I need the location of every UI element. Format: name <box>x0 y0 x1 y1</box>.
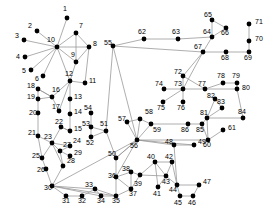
graph-node[interactable] <box>41 74 46 79</box>
graph-node-label: 43 <box>162 178 170 185</box>
graph-node[interactable] <box>35 29 40 34</box>
graph-node-label: 9 <box>71 51 75 58</box>
graph-node[interactable] <box>50 141 55 146</box>
graph-node-label: 48 <box>165 138 173 145</box>
graph-node[interactable] <box>241 116 246 121</box>
graph-node-label: 46 <box>188 199 196 206</box>
graph-node[interactable] <box>221 81 226 86</box>
graph-edge <box>43 47 57 76</box>
graph-node[interactable] <box>210 18 215 23</box>
graph-node[interactable] <box>176 37 181 42</box>
graph-node[interactable] <box>36 97 41 102</box>
graph-node[interactable] <box>87 45 92 50</box>
graph-node-label: 69 <box>244 54 252 61</box>
graph-node-label: 26 <box>37 166 45 173</box>
graph-node[interactable] <box>93 187 98 192</box>
graph-node[interactable] <box>40 156 45 161</box>
graph-node-label: 51 <box>100 120 108 127</box>
graph-node[interactable] <box>36 87 41 92</box>
graph-node[interactable] <box>36 134 41 139</box>
graph-node[interactable] <box>178 194 183 199</box>
graph-node[interactable] <box>23 55 28 60</box>
graph-node[interactable] <box>68 129 73 134</box>
graph-node[interactable] <box>83 81 88 86</box>
graph-node[interactable] <box>142 37 147 42</box>
graph-node-label: 42 <box>165 153 173 160</box>
graph-node[interactable] <box>247 39 252 44</box>
graph-node[interactable] <box>138 173 143 178</box>
graph-node-label: 56 <box>130 142 138 149</box>
graph-node-label: 27 <box>63 141 71 148</box>
graph-node-label: 38 <box>122 165 130 172</box>
graph-node-label: 6 <box>35 75 39 82</box>
graph-node[interactable] <box>65 16 70 21</box>
graph-node-label: 32 <box>78 197 86 204</box>
graph-node[interactable] <box>235 87 240 92</box>
graph-node-label: 53 <box>82 120 90 127</box>
graph-node[interactable] <box>235 81 240 86</box>
graph-edge <box>52 127 61 143</box>
graph-node[interactable] <box>192 143 197 148</box>
graph-node[interactable] <box>68 79 73 84</box>
graph-node-label: 12 <box>65 70 73 77</box>
graph-node-label: 85 <box>196 126 204 133</box>
graph-node[interactable] <box>68 112 73 117</box>
graph-node[interactable] <box>156 185 161 190</box>
graph-node-label: 84 <box>238 108 246 115</box>
graph-node-label: 79 <box>232 72 240 79</box>
graph-node-label: 80 <box>242 84 250 91</box>
graph-node[interactable] <box>170 160 175 165</box>
graph-edge <box>57 33 76 47</box>
graph-node-label: 65 <box>204 11 212 18</box>
graph-node-label: 77 <box>198 80 206 87</box>
graph-node-label: 61 <box>228 124 236 131</box>
graph-node[interactable] <box>162 87 167 92</box>
graph-node-label: 40 <box>147 153 155 160</box>
graph-node-label: 14 <box>74 108 82 115</box>
graph-node-label: 81 <box>200 109 208 116</box>
graph-node-label: 78 <box>217 72 225 79</box>
graph-edge <box>212 20 226 28</box>
graph-node[interactable] <box>210 35 215 40</box>
graph-edge <box>140 162 155 175</box>
graph-node[interactable] <box>22 38 27 43</box>
graph-node-label: 57 <box>118 115 126 122</box>
graph-node[interactable] <box>247 22 252 27</box>
graph-node-label: 18 <box>27 82 35 89</box>
graph-node-label: 17 <box>52 103 60 110</box>
graph-node[interactable] <box>61 164 66 169</box>
graph-node[interactable] <box>74 31 79 36</box>
graph-node[interactable] <box>89 111 94 116</box>
graph-node[interactable] <box>220 106 225 111</box>
graph-edge <box>113 46 137 140</box>
graph-node[interactable] <box>50 95 55 100</box>
graph-node[interactable] <box>197 183 202 188</box>
graph-node-label: 62 <box>138 28 146 35</box>
graph-node-label: 7 <box>79 22 83 29</box>
graph-node[interactable] <box>55 45 60 50</box>
graph-node[interactable] <box>104 129 109 134</box>
graph-node[interactable] <box>153 160 158 165</box>
graph-node[interactable] <box>74 60 79 65</box>
graph-node-label: 39 <box>134 180 142 187</box>
graph-node[interactable] <box>203 87 208 92</box>
graph-node[interactable] <box>58 149 63 154</box>
graph-node[interactable] <box>221 128 226 133</box>
graph-node[interactable] <box>205 116 210 121</box>
graph-edge <box>91 131 106 137</box>
graph-node-label: 13 <box>74 93 82 100</box>
graph-canvas: 1234567891011121314151617181920212223242… <box>0 0 277 213</box>
graph-node-label: 2 <box>28 22 32 29</box>
graph-node[interactable] <box>59 125 64 130</box>
graph-edge <box>203 37 212 52</box>
graph-node[interactable] <box>191 194 196 199</box>
graph-node-label: 54 <box>84 104 92 111</box>
graph-node[interactable] <box>29 68 34 73</box>
graph-node[interactable] <box>138 117 143 122</box>
graph-node[interactable] <box>68 97 73 102</box>
graph-node-label: 60 <box>203 141 211 148</box>
graph-node[interactable] <box>201 50 206 55</box>
graph-edge <box>76 47 89 62</box>
graph-edge <box>42 143 52 158</box>
graph-node[interactable] <box>181 87 186 92</box>
